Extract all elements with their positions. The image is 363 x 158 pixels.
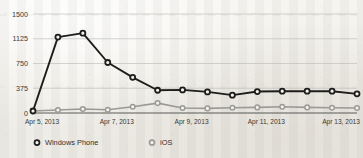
gridlines (33, 14, 357, 113)
x-axis-tick-label: Apr 11, 2013 (248, 118, 286, 126)
data-point-marker (81, 107, 86, 112)
data-point-marker (205, 89, 210, 94)
data-point-marker (56, 108, 61, 113)
data-point-marker (31, 109, 36, 114)
data-point-marker (205, 106, 210, 111)
data-point-marker (280, 104, 285, 109)
data-point-marker (280, 89, 285, 94)
data-point-marker (80, 31, 85, 36)
scanned-page-background: 037575011251500 Apr 5, 2013Apr 7, 2013Ap… (0, 0, 363, 158)
data-point-marker (330, 89, 335, 94)
data-point-marker (130, 75, 135, 80)
line-chart: 037575011251500 Apr 5, 2013Apr 7, 2013Ap… (0, 0, 363, 158)
data-point-marker (105, 60, 110, 65)
legend-label: iOS (160, 138, 172, 147)
data-point-marker (305, 105, 310, 110)
legend-label: Windows Phone (45, 138, 98, 147)
x-axis-tick-label: Apr 9, 2013 (174, 118, 208, 126)
x-axis-tick-label: Apr 13, 2013 (322, 118, 360, 126)
y-axis-tick-labels: 037575011251500 (12, 10, 28, 118)
data-point-marker (155, 88, 160, 93)
legend-marker (150, 140, 155, 145)
data-point-marker (255, 89, 260, 94)
data-point-marker (255, 105, 260, 110)
data-point-marker (105, 107, 110, 112)
chart-legend: Windows PhoneiOS (35, 138, 173, 147)
data-point-marker (55, 35, 60, 40)
x-axis-tick-label: Apr 5, 2013 (25, 118, 59, 126)
data-point-marker (355, 106, 360, 111)
data-point-marker (230, 105, 235, 110)
series-line (33, 33, 357, 111)
data-point-marker (355, 91, 360, 96)
data-point-marker (180, 87, 185, 92)
legend-marker (35, 140, 40, 145)
y-axis-tick-label: 1125 (13, 34, 28, 43)
y-axis-tick-label: 375 (16, 84, 28, 93)
data-point-marker (305, 89, 310, 94)
data-point-marker (130, 104, 135, 109)
y-axis-tick-label: 750 (16, 59, 28, 68)
data-point-marker (330, 105, 335, 110)
y-axis-tick-label: 1500 (12, 10, 28, 19)
y-axis-tick-label: 0 (24, 109, 28, 118)
x-axis-tick-labels: Apr 5, 2013Apr 7, 2013Apr 9, 2013Apr 11,… (25, 118, 360, 126)
x-axis-tick-label: Apr 7, 2013 (100, 118, 134, 126)
data-point-marker (180, 106, 185, 111)
data-point-marker (155, 101, 160, 106)
data-point-marker (230, 93, 235, 98)
data-series-layer (31, 31, 360, 114)
